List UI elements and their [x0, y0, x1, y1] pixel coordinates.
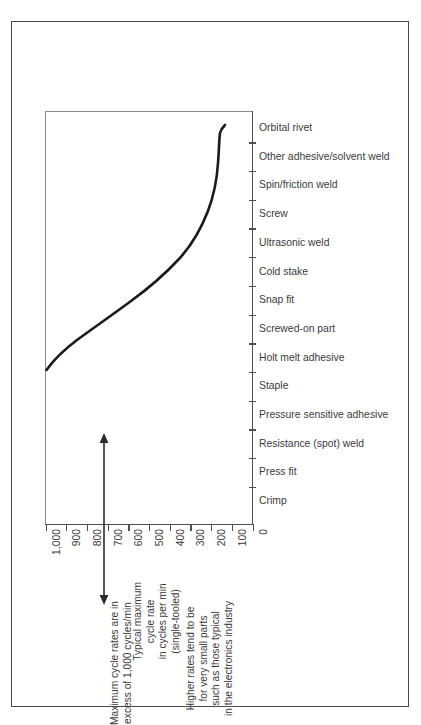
value-tick-label: 300	[195, 529, 206, 546]
value-axis-title: Typical maximum cycle rate in cycles per…	[132, 582, 182, 661]
value-axis-title-line4: (single-tooled)	[170, 582, 183, 661]
value-tick-label: 700	[113, 529, 124, 546]
annotation-max-line1: Maximum cycle rates are in	[109, 601, 122, 725]
value-tick-label: 200	[216, 529, 227, 546]
category-label: Resistance (spot) weld	[259, 438, 364, 449]
annotation-high-line1: Higher rates tend to be	[185, 601, 198, 716]
figure-frame: Maximum cycle rates are in excess of 1,0…	[11, 21, 409, 707]
plot-area: Maximum cycle rates are in excess of 1,0…	[45, 111, 253, 525]
category-label: Other adhesive/solvent weld	[259, 151, 390, 162]
category-label: Spin/friction weld	[259, 179, 338, 190]
value-tick-label: 0	[258, 529, 269, 535]
category-label: Press fit	[259, 466, 297, 477]
annotation-max-cycle-rates: Maximum cycle rates are in excess of 1,0…	[109, 601, 134, 725]
category-label: Ultrasonic weld	[259, 237, 329, 248]
annotation-high-line4: in the electronics industry	[223, 601, 236, 716]
cycle-rate-curve	[45, 111, 253, 525]
category-label: Screw	[259, 208, 288, 219]
category-label: Snap fit	[259, 294, 294, 305]
category-label: Cold stake	[259, 266, 308, 277]
value-tick-label: 900	[71, 529, 82, 546]
category-label: Holt melt adhesive	[259, 352, 344, 363]
category-label: Screwed-on part	[259, 323, 335, 334]
value-axis-title-line3: in cycles per min	[157, 582, 170, 661]
value-axis-tick-labels: 1,0009008007006005004003002001000	[45, 529, 260, 589]
annotation-higher-rates: Higher rates tend to be for very small p…	[185, 601, 235, 716]
value-axis-title-line1: Typical maximum	[132, 582, 145, 661]
category-label: Crimp	[259, 495, 287, 506]
value-tick-label: 500	[154, 529, 165, 546]
value-tick-label: 100	[237, 529, 248, 546]
annotation-high-line2: for very small parts	[198, 601, 211, 716]
category-label: Staple	[259, 380, 288, 391]
category-label: Pressure sensitive adhesive	[259, 409, 388, 420]
category-label: Orbital rivet	[259, 122, 312, 133]
value-axis-title-line2: cycle rate	[145, 582, 158, 661]
value-tick-label: 800	[92, 529, 103, 546]
value-tick-label: 1,000	[51, 529, 62, 555]
category-label-list: Orbital rivetOther adhesive/solvent weld…	[259, 111, 419, 525]
value-tick-label: 400	[175, 529, 186, 546]
value-tick-label: 600	[133, 529, 144, 546]
annotation-high-line3: such as those typical	[210, 601, 223, 716]
